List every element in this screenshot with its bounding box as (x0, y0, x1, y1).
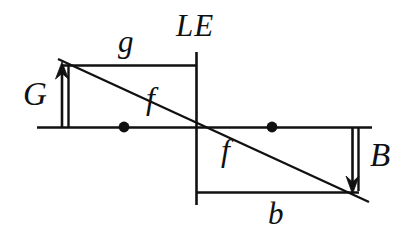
label-image-height-B: B (370, 139, 390, 172)
label-image-distance-b: b (268, 198, 284, 229)
principal-ray-diagonal (58, 59, 369, 202)
optics-diagram: g LE G f f B b (0, 0, 407, 243)
label-focal-length-lower-f: f (221, 134, 230, 166)
label-object-height-G: G (23, 78, 47, 111)
label-focal-length-upper-f: f (146, 82, 155, 114)
label-object-distance-g: g (118, 26, 134, 57)
label-lens-plane-le: LE (176, 10, 214, 41)
focal-point-object-side-dot (119, 122, 130, 133)
focal-point-image-side-dot (267, 122, 278, 133)
